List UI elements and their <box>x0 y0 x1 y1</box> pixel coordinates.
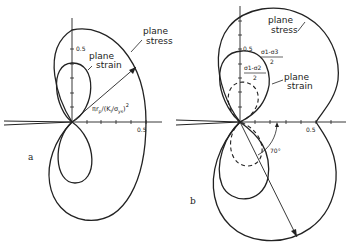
plane-stress-label-a-1: plane <box>143 26 168 36</box>
crack-line-b <box>176 120 240 125</box>
radius-arrow-a <box>72 67 136 122</box>
arrowhead-a <box>129 67 136 74</box>
plane-stress-curve-b <box>213 8 338 240</box>
panel-label-a: a <box>28 152 34 162</box>
angle-arrowhead-b <box>275 122 279 127</box>
y-tick-label-a: 0.5 <box>76 45 86 52</box>
y-tick-label-b: 0.5 <box>243 45 253 52</box>
svg-text:2: 2 <box>253 74 257 81</box>
dashed-curve-b-upper <box>228 82 258 122</box>
angle-label-b: 70° <box>270 147 281 154</box>
plane-strain-curve-a-upper <box>57 63 91 122</box>
x-tick-label-b: 0.5 <box>306 126 316 133</box>
plane-strain-label-a-2: strain <box>96 60 122 70</box>
plane-strain-label-b-2: strain <box>287 81 313 91</box>
svg-text:2: 2 <box>270 58 274 65</box>
radius-label-a: πrp/(KI/σys)2 <box>92 102 129 114</box>
panel-label-b: b <box>190 196 196 206</box>
leader-strain-b <box>272 80 283 84</box>
x-tick-label-a: 0.5 <box>137 126 147 133</box>
plane-stress-label-b-2: stress <box>271 25 298 35</box>
svg-text:σ1-σ2: σ1-σ2 <box>244 64 262 71</box>
fraction-sigma1-sigma2: σ1-σ2 2 <box>244 64 266 81</box>
plastic-zone-diagram: 0.5 0.5 plane stress plane strain πrp/(K… <box>0 0 346 246</box>
plane-stress-label-b-1: plane <box>268 15 293 25</box>
arrowhead-b <box>291 229 297 237</box>
dashed-curve-b-lower <box>231 122 263 166</box>
panel-b <box>176 6 346 241</box>
svg-text:σ1-σ3: σ1-σ3 <box>261 48 279 55</box>
plane-stress-label-a-2: stress <box>146 36 173 46</box>
plane-strain-curve-a-lower <box>58 122 92 183</box>
leader-stress-b <box>298 22 305 31</box>
radius-arrow-b <box>240 122 297 237</box>
leader-strain-a <box>88 66 92 70</box>
crack-line-a <box>4 121 72 125</box>
leader-stress-a <box>131 40 142 52</box>
